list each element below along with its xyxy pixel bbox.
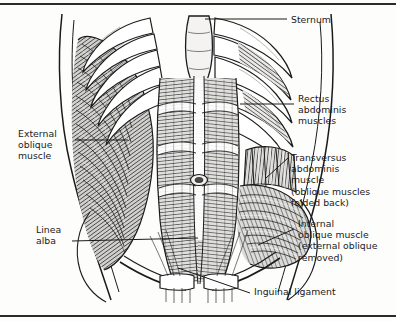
label-rectus-abdominis: Rectusabdominismuscles: [298, 93, 346, 127]
label-linea-alba: Lineaalba: [36, 224, 61, 246]
label-internal-oblique: Internaloblique muscle(external obliquer…: [298, 218, 396, 263]
umbilicus: [191, 175, 208, 186]
label-sternum: Sternum: [291, 14, 331, 25]
anatomy-figure: Sternum Rectusabdominismuscles Transvers…: [0, 0, 396, 321]
label-external-oblique: Externalobliquemuscle: [18, 128, 57, 162]
label-inguinal-ligament: Inguinal ligament: [254, 286, 336, 297]
label-transversus-abdominis: Transversusabdominismuscle(oblique muscl…: [291, 152, 395, 208]
